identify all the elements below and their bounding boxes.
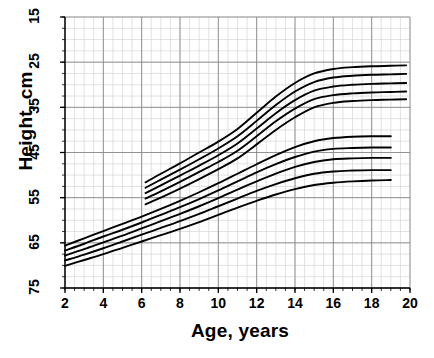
data-curves bbox=[65, 65, 406, 266]
growth-chart: Height, cm Age, years 75655545352515 246… bbox=[0, 0, 434, 358]
plot-area bbox=[0, 0, 434, 358]
